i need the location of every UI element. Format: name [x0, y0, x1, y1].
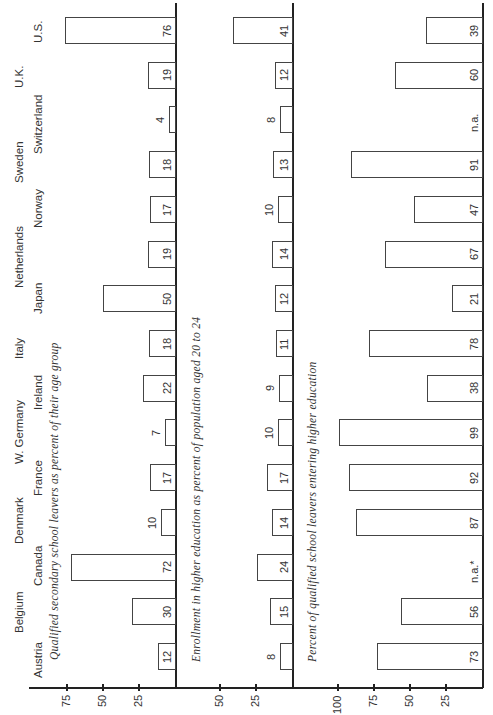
axis-tick — [445, 684, 447, 691]
axis-tick-label: 50 — [403, 695, 415, 707]
bar-value-label: 12 — [278, 69, 290, 81]
bar — [280, 643, 293, 670]
country-label: Sweden — [13, 142, 25, 184]
bar — [161, 509, 176, 536]
panel3-title: Percent of qualified school leavers ente… — [306, 361, 318, 662]
bar-value-label: 87 — [468, 516, 480, 528]
axis-tick-label: 75 — [367, 695, 379, 707]
bar-value-label: n.a. — [468, 114, 480, 132]
bar-value-label: 13 — [278, 159, 290, 171]
country-label: Japan — [32, 283, 44, 314]
axis-tick-label: 25 — [439, 695, 451, 707]
bar-value-label: 56 — [468, 606, 480, 618]
bar — [349, 464, 483, 491]
bar-value-label: 18 — [161, 337, 173, 349]
bar-value-label: 12 — [161, 650, 173, 662]
bar-value-label: 24 — [278, 561, 290, 573]
axis-tick-label: 50 — [96, 695, 108, 707]
bar-value-label: 10 — [263, 427, 275, 439]
bar-value-label: n.a.* — [468, 560, 480, 583]
axis-tick-label: 25 — [249, 695, 261, 707]
bar-value-label: 17 — [161, 203, 173, 215]
bar-value-label: 10 — [263, 203, 275, 215]
bar-value-label: 67 — [468, 248, 480, 260]
bar — [169, 106, 176, 133]
bar-value-label: 8 — [265, 117, 277, 123]
bar-value-label: 30 — [161, 606, 173, 618]
bar-value-label: 78 — [468, 337, 480, 349]
panel1-title: Qualified secondary school leavers as pe… — [48, 342, 60, 660]
axis-tick — [373, 684, 375, 691]
country-label: Norway — [32, 189, 44, 228]
bar-value-label: 14 — [278, 248, 290, 260]
axis-tick-label: 25 — [132, 695, 144, 707]
bar-value-label: 9 — [264, 385, 276, 391]
axis-tick — [409, 684, 411, 691]
bar-value-label: 10 — [146, 516, 158, 528]
axis-tick-label: 100 — [331, 695, 343, 713]
country-label: Ireland — [32, 375, 44, 410]
bar-value-label: 99 — [468, 427, 480, 439]
bar-value-label: 17 — [278, 472, 290, 484]
bar — [351, 151, 483, 178]
country-label: Denmark — [13, 497, 25, 544]
axis-tick — [102, 684, 104, 691]
axis-tick — [138, 684, 140, 691]
bar-value-label: 17 — [161, 472, 173, 484]
country-label: U.S. — [32, 21, 44, 43]
country-label: Switzerland — [32, 95, 44, 154]
bar — [369, 330, 483, 357]
bar-value-label: 12 — [278, 293, 290, 305]
axis-tick — [255, 684, 257, 691]
axis-tick — [66, 684, 68, 691]
axis-tick — [219, 684, 221, 691]
bar-value-label: 73 — [468, 650, 480, 662]
bar-value-label: 15 — [278, 606, 290, 618]
bar-value-label: 22 — [161, 382, 173, 394]
bar-value-label: 50 — [161, 293, 173, 305]
bar-value-label: 91 — [468, 159, 480, 171]
bar-value-label: 11 — [278, 338, 290, 349]
bar-value-label: 39 — [468, 24, 480, 36]
bar-value-label: 14 — [278, 516, 290, 528]
bar-value-label: 92 — [468, 472, 480, 484]
country-label: Netherlands — [13, 226, 25, 288]
bar-value-label: 76 — [161, 24, 173, 36]
country-label: Belgium — [13, 592, 25, 634]
axis-tick — [337, 684, 339, 691]
bar-value-label: 72 — [161, 561, 173, 573]
bar — [279, 375, 293, 402]
bar — [339, 419, 483, 446]
country-label: U.K. — [13, 65, 25, 87]
bar-value-label: 47 — [468, 203, 480, 215]
bar — [165, 419, 176, 446]
bar-value-label: 60 — [468, 69, 480, 81]
axis-tick-label: 50 — [213, 695, 225, 707]
country-label: Austria — [32, 642, 44, 678]
panel2-title: Enrollment in higher education as percen… — [190, 317, 202, 662]
bar — [356, 509, 483, 536]
bar-value-label: 7 — [150, 430, 162, 436]
bar-value-label: 19 — [161, 248, 173, 260]
bar-value-label: 38 — [468, 382, 480, 394]
bar — [278, 419, 293, 446]
country-label: Italy — [13, 338, 25, 359]
bar-value-label: 21 — [468, 293, 480, 305]
bar-value-label: 18 — [161, 159, 173, 171]
bar — [377, 643, 483, 670]
country-label: W. Germany — [13, 400, 25, 464]
axis-tick-label: 75 — [60, 695, 72, 707]
bar — [65, 17, 176, 44]
bar — [278, 196, 293, 223]
bar-value-label: 19 — [161, 69, 173, 81]
bar-value-label: 4 — [154, 117, 166, 123]
bar-value-label: 41 — [278, 24, 290, 36]
bar — [280, 106, 293, 133]
country-label: Canada — [32, 545, 44, 585]
bar-value-label: 8 — [265, 653, 277, 659]
country-label: France — [32, 460, 44, 496]
